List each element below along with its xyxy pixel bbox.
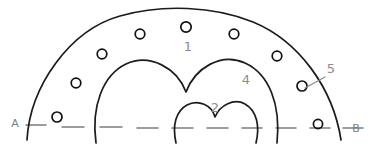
- circle-marker-3: [97, 49, 107, 59]
- diagram-canvas: 1 4 2 5 A B: [0, 0, 386, 155]
- region-label-2: 2: [211, 100, 219, 115]
- outer-semicircle-arc: [27, 8, 341, 140]
- endpoint-label-a: A: [11, 117, 19, 130]
- circle-marker-1: [52, 112, 62, 122]
- baseline-dashed-line: [26, 125, 363, 128]
- circle-marker-2: [71, 78, 81, 88]
- outer-heart-curve: [95, 59, 278, 143]
- region-label-1: 1: [184, 39, 192, 54]
- circle-marker-8: [297, 81, 307, 91]
- callout-label-5: 5: [327, 61, 335, 76]
- circle-marker-9: [313, 119, 322, 128]
- endpoint-label-b: B: [352, 122, 360, 135]
- circle-marker-4: [135, 29, 145, 39]
- circle-marker-7: [272, 51, 282, 61]
- circle-marker-6: [229, 29, 239, 39]
- circle-marker-5: [181, 22, 191, 32]
- hand-drawn-diagram: 1 4 2 5 A B: [0, 0, 386, 155]
- region-label-4: 4: [242, 72, 250, 87]
